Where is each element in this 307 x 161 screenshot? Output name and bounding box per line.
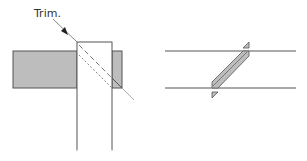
- left-view: Trim.: [13, 7, 134, 150]
- right-view: [165, 42, 296, 98]
- section-marker-bottom-icon: [212, 92, 218, 98]
- scarf-joint-centerline: [213, 52, 247, 86]
- scarf-joint-band: [212, 51, 249, 88]
- horizontal-board-left: [13, 51, 77, 88]
- trim-extension-line: [122, 88, 134, 100]
- trim-label: Trim.: [33, 7, 61, 20]
- trim-joint-diagram: Trim.: [0, 0, 307, 161]
- section-marker-top-icon: [243, 42, 249, 48]
